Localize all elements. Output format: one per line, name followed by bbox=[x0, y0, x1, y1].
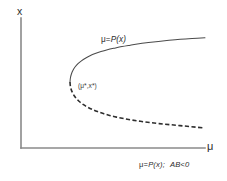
curve-label-arg: (x) bbox=[116, 35, 126, 44]
x-axis-label: μ bbox=[207, 141, 213, 152]
caption-arg: (x); bbox=[153, 160, 165, 169]
caption-condition: AB<0 bbox=[170, 160, 189, 169]
fold-point-label: (μ*,x*) bbox=[78, 83, 97, 90]
figure-caption: μ=P(x);AB<0 bbox=[139, 161, 189, 169]
bifurcation-diagram-figure: x μ μ=P(x) (μ*,x*) μ=P(x);AB<0 bbox=[0, 0, 227, 181]
y-axis-label: x bbox=[17, 6, 22, 17]
curve-label-mu: μ= bbox=[101, 35, 111, 44]
curve-equation-label: μ=P(x) bbox=[101, 36, 126, 44]
caption-mu: μ= bbox=[139, 160, 148, 169]
upper-branch-curve bbox=[70, 38, 205, 82]
plot-canvas bbox=[0, 0, 227, 181]
